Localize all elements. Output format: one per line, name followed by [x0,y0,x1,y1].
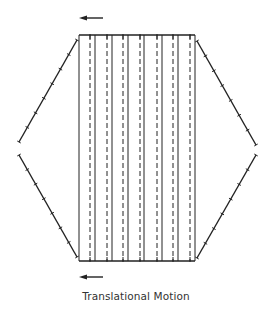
arrow-left-icon [79,275,87,280]
right-lower-chain [197,155,256,258]
caption: Translational Motion [0,290,272,302]
translational-motion-diagram: Translational Motion [0,0,272,312]
left-upper-chain [19,40,77,142]
diagram-canvas [0,0,272,312]
left-lower-chain [19,155,77,257]
arrow-left-icon [79,16,87,21]
right-upper-chain [197,41,256,145]
